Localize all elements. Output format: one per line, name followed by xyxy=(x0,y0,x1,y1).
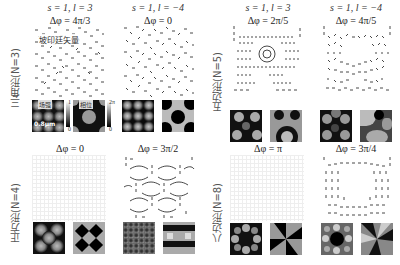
phase-label: 相位 xyxy=(79,100,93,109)
intensity-map xyxy=(320,110,352,142)
poynting-quiver-plot xyxy=(122,22,196,98)
poynting-quiver-plot xyxy=(230,155,304,221)
column-header-4: s = 1, l = −4 xyxy=(316,2,396,13)
phase-map xyxy=(270,223,302,255)
intensity-cbar-min: 0 xyxy=(68,126,71,132)
intensity-map xyxy=(230,223,262,255)
intensity-map xyxy=(230,110,262,142)
scale-bar-label: 0.8μm xyxy=(34,120,55,127)
row-label-square: 正方形(N=4) xyxy=(8,168,23,243)
intensity-map xyxy=(321,223,353,255)
intensity-label: 场强 xyxy=(38,100,52,109)
poynting-quiver-plot xyxy=(32,155,106,221)
phase-map xyxy=(361,223,393,255)
poynting-vector-label: 坡印廷矢量 xyxy=(38,34,80,45)
column-header-2: s = 1, l = −4 xyxy=(118,2,198,13)
poynting-quiver-plot xyxy=(122,155,196,221)
row-label-octagon: 八边形(N=8) xyxy=(210,168,225,243)
intensity-map xyxy=(122,100,154,132)
row-label-triangle: 三角形(N=3) xyxy=(8,38,23,108)
dphi-label: Δφ = 3π/4 xyxy=(316,143,396,154)
phase-cbar-min: 0 xyxy=(109,126,112,132)
dphi-label: Δφ = 0 xyxy=(30,143,110,154)
phase-map xyxy=(270,110,302,142)
phase-cbar-max: 2π xyxy=(109,99,115,105)
phase-map xyxy=(360,110,392,142)
column-header-3: s = 1, l = 3 xyxy=(228,2,308,13)
intensity-map xyxy=(33,222,65,254)
poynting-quiver-plot xyxy=(320,155,394,221)
phase-map xyxy=(162,100,194,132)
column-header-1: s = 1, l = 3 xyxy=(30,2,110,13)
intensity-cbar-max: 1 xyxy=(68,99,71,105)
poynting-quiver-plot xyxy=(320,22,394,98)
phase-map xyxy=(73,222,105,254)
intensity-map xyxy=(123,222,155,254)
phase-map xyxy=(163,222,195,254)
row-label-pentagon: 五边形(N=5) xyxy=(210,42,225,112)
dphi-label: Δφ = π xyxy=(228,143,308,154)
dphi-label: Δφ = 3π/2 xyxy=(118,143,198,154)
poynting-quiver-plot xyxy=(230,22,304,98)
